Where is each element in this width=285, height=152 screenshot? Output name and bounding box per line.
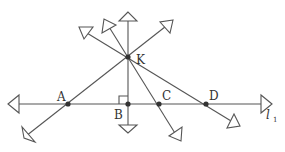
arrowhead-far-lower-right-icon: [227, 114, 240, 128]
point-a: [65, 101, 70, 106]
line-l1: [8, 95, 272, 113]
label-a: A: [56, 90, 66, 104]
arrowhead-far-upper-left-icon: [79, 27, 93, 39]
label-d: D: [209, 89, 219, 103]
arrowhead-up-icon: [119, 12, 137, 21]
arrowhead-upper-right-icon: [160, 20, 173, 33]
arrowhead-left-icon: [8, 95, 19, 113]
arrowhead-upper-left-icon: [102, 19, 116, 33]
label-l1: l: [266, 108, 270, 122]
arrowhead-lower-left-icon: [22, 127, 35, 142]
point-k: [125, 54, 130, 59]
point-c: [156, 101, 161, 106]
label-k: K: [136, 53, 146, 67]
geometry-diagram: K A B C D l 1: [0, 0, 285, 152]
arrowhead-lower-right-icon: [169, 127, 182, 141]
line-kd: [79, 27, 240, 128]
line-ak: [22, 20, 173, 142]
label-c: C: [162, 89, 171, 103]
line-kc: [102, 19, 182, 141]
point-d: [203, 101, 208, 106]
arrowhead-down-icon: [119, 125, 137, 133]
label-l1-subscript: 1: [273, 116, 277, 124]
label-b: B: [114, 108, 123, 122]
point-b: [125, 101, 130, 106]
